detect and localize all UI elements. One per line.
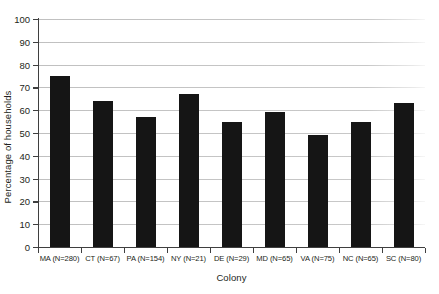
x-axis-tick-label: DE (N=29) [214,254,249,263]
x-axis-tick [382,248,383,253]
bar [136,117,156,247]
x-axis-tick [167,248,168,253]
bar [179,94,199,247]
x-axis-tick [124,248,125,253]
x-axis-tick-label: MA (N=280) [40,254,80,263]
x-axis-tick [339,248,340,253]
x-axis-line [38,247,425,248]
bar [93,101,113,247]
x-axis-tick [210,248,211,253]
y-axis-tick-label: 60 [2,105,30,116]
bar [265,112,285,247]
gridline [38,42,425,43]
gridline [38,87,425,88]
x-axis-tick-label: MD (N=65) [256,254,292,263]
y-axis-tick-label: 0 [2,242,30,253]
x-axis-tick [296,248,297,253]
y-axis-tick-label: 50 [2,128,30,139]
bar-chart: Percentage of households 010203040506070… [0,0,439,294]
gridline [38,65,425,66]
bar [394,103,414,247]
bar [222,122,242,247]
y-axis-tick-label: 30 [2,173,30,184]
x-axis-tick-label: PA (N=154) [127,254,165,263]
bar [50,76,70,247]
y-axis-line [38,18,39,248]
bar [308,135,328,247]
x-axis-tick [81,248,82,253]
y-axis-tick-label: 20 [2,196,30,207]
x-axis-tick [38,248,39,253]
y-axis-tick-label: 40 [2,150,30,161]
x-axis-tick-label: CT (N=67) [85,254,120,263]
y-axis-tick-label: 80 [2,59,30,70]
x-axis-tick [425,248,426,253]
y-axis-tick-label: 10 [2,219,30,230]
bar [351,122,371,247]
x-axis-tick-label: SC (N=80) [386,254,421,263]
x-axis-tick-label: NC (N=65) [343,254,379,263]
x-axis-tick [253,248,254,253]
y-axis-tick-label: 90 [2,36,30,47]
y-axis-tick-label: 70 [2,82,30,93]
x-axis-tick-label: NY (N=21) [171,254,206,263]
x-axis-title: Colony [38,272,425,283]
plot-area [38,19,425,247]
x-axis-tick-label: VA (N=75) [301,254,335,263]
y-axis-tick-label: 100 [2,14,30,25]
gridline [38,19,425,20]
